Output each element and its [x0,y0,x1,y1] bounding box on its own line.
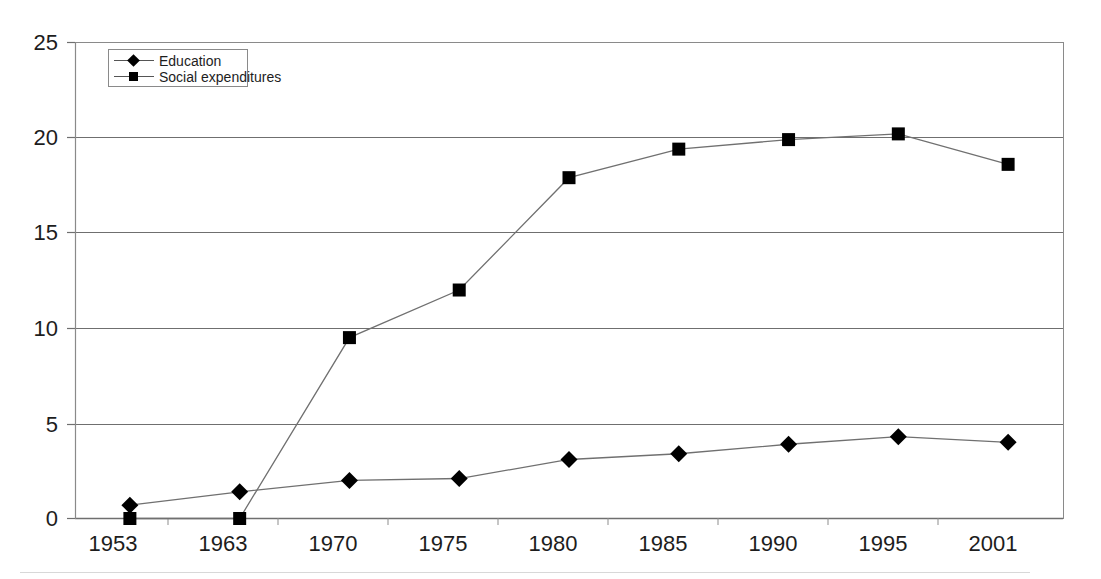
y-tick-label-0: 0 [14,508,58,530]
x-tick-label-1975: 1975 [403,533,483,555]
data-point-square-marker [563,171,576,184]
diamond-marker-icon [114,54,154,68]
x-tick-label-2001: 2001 [953,533,1033,555]
y-tick-label-20: 20 [14,127,58,149]
legend-label-social-expenditures: Social expenditures [159,70,281,84]
x-tick-label-1963: 1963 [183,533,263,555]
data-point-square-marker [782,133,795,146]
y-tick-label-10: 10 [14,318,58,340]
x-tick-label-1970: 1970 [293,533,373,555]
x-tick-label-1985: 1985 [623,533,703,555]
x-tick-label-1990: 1990 [733,533,813,555]
data-point-square-marker [233,512,246,525]
data-point-square-marker [1002,158,1015,171]
y-tick-label-5: 5 [14,414,58,436]
y-tick-label-15: 15 [14,222,58,244]
data-point-square-marker [453,284,466,297]
x-tick-label-1953: 1953 [73,533,153,555]
y-tick-marks [67,43,75,519]
data-point-square-marker [343,331,356,344]
data-point-square-marker [672,143,685,156]
x-tick-label-1980: 1980 [513,533,593,555]
legend-item-education: Education [114,53,240,69]
scan-artifact-line [20,572,1030,573]
chart-legend: Education Social expenditures [108,49,248,87]
plot-area-border [76,43,1064,519]
legend-item-social-expenditures: Social expenditures [114,69,240,85]
line-chart-figure: 25 20 15 10 5 0 1953 1963 1970 1975 1980… [0,0,1101,579]
legend-label-education: Education [159,54,221,68]
square-marker-icon [114,70,154,84]
x-tick-label-1995: 1995 [843,533,923,555]
data-point-square-marker [123,512,136,525]
data-point-square-marker [892,127,905,140]
y-tick-label-25: 25 [14,32,58,54]
